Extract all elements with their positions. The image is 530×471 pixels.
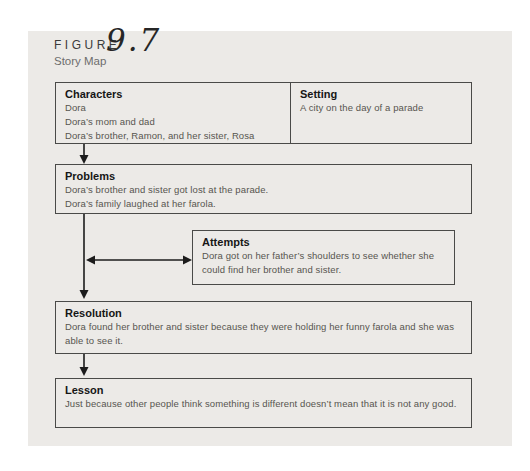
lesson-title: Lesson bbox=[65, 383, 462, 397]
resolution-box: Resolution Dora found her brother and si… bbox=[55, 301, 472, 354]
figure-number: 9.7 bbox=[106, 22, 161, 58]
characters-setting-box: Characters Dora Dora’s mom and dad Dora’… bbox=[55, 82, 472, 144]
characters-line: Dora’s mom and dad bbox=[65, 115, 281, 129]
arrow-problems-to-resolution-icon bbox=[80, 213, 89, 299]
arrow-resolution-to-lesson-icon bbox=[80, 353, 89, 376]
characters-line: Dora bbox=[65, 101, 281, 115]
attempts-title: Attempts bbox=[202, 235, 445, 249]
attempts-box: Attempts Dora got on her father’s should… bbox=[192, 230, 455, 285]
setting-line: A city on the day of a parade bbox=[300, 101, 462, 115]
characters-cell: Characters Dora Dora’s mom and dad Dora’… bbox=[56, 83, 290, 143]
attempts-text: Dora got on her father’s shoulders to se… bbox=[202, 249, 445, 277]
figure-panel: FIGURE 9.7 Story Map bbox=[28, 31, 512, 446]
arrow-characters-to-problems-icon bbox=[80, 143, 89, 164]
setting-cell: Setting A city on the day of a parade bbox=[290, 83, 471, 143]
arrow-double-attempts-icon bbox=[86, 256, 192, 265]
lesson-text: Just because other people think somethin… bbox=[65, 397, 462, 411]
problems-line: Dora’s brother and sister got lost at th… bbox=[65, 183, 462, 197]
resolution-text: Dora found her brother and sister becaus… bbox=[65, 320, 462, 348]
figure-subtitle: Story Map bbox=[54, 55, 106, 67]
problems-title: Problems bbox=[65, 169, 462, 183]
problems-box: Problems Dora’s brother and sister got l… bbox=[55, 164, 472, 214]
characters-line: Dora’s brother, Ramon, and her sister, R… bbox=[65, 129, 281, 143]
lesson-box: Lesson Just because other people think s… bbox=[55, 378, 472, 428]
problems-line: Dora’s family laughed at her farola. bbox=[65, 197, 462, 211]
setting-title: Setting bbox=[300, 87, 462, 101]
resolution-title: Resolution bbox=[65, 306, 462, 320]
figure-page: FIGURE 9.7 Story Map bbox=[0, 0, 530, 471]
characters-title: Characters bbox=[65, 87, 281, 101]
